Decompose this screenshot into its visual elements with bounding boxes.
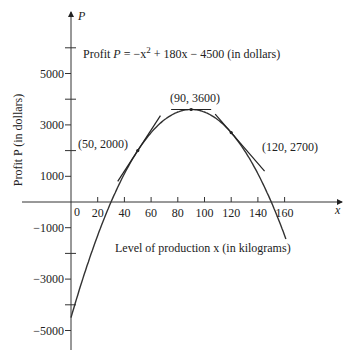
tangent-line: [215, 114, 264, 171]
tangent-point: [230, 131, 233, 134]
y-tick-label: −1000: [33, 221, 64, 235]
profit-chart: 204060801001201401600500030001000−1000−3…: [0, 0, 354, 360]
y-tick-label: −5000: [33, 324, 64, 338]
chart-labels: 204060801001201401600500030001000−1000−3…: [11, 9, 341, 338]
x-axis-letter: x: [334, 203, 341, 217]
tangent-point: [190, 108, 193, 111]
origin-label: 0: [74, 205, 80, 219]
x-tick-label: 140: [249, 206, 267, 220]
y-tick-label: 5000: [40, 67, 64, 81]
point-label: (90, 3600): [170, 91, 220, 105]
x-tick-label: 20: [92, 206, 104, 220]
y-tick-label: −3000: [33, 272, 64, 286]
x-tick-label: 160: [276, 206, 294, 220]
y-tick-label: 3000: [40, 118, 64, 132]
point-label: (120, 2700): [262, 140, 318, 154]
y-axis-label: Profit P (in dollars): [11, 94, 25, 187]
x-tick-label: 40: [118, 206, 130, 220]
x-tick-label: 60: [145, 206, 157, 220]
chart-title: Profit P = −x2 + 180x − 4500 (in dollars…: [83, 45, 280, 61]
tangent-point: [136, 149, 139, 152]
axes: [22, 12, 342, 350]
x-axis-label: Level of production x (in kilograms): [115, 241, 291, 255]
tangent-lines: [118, 108, 265, 182]
x-tick-label: 100: [196, 206, 214, 220]
y-tick-label: 1000: [40, 169, 64, 183]
point-label: (50, 2000): [78, 137, 128, 151]
y-axis-letter: P: [77, 9, 86, 23]
x-tick-label: 80: [172, 206, 184, 220]
x-tick-label: 120: [222, 206, 240, 220]
